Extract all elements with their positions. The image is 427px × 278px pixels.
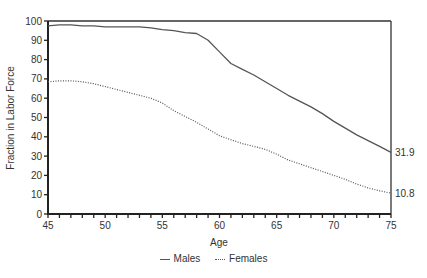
x-tick-label: 50 [100,220,112,231]
y-tick-label: 0 [36,209,42,220]
x-tick-label: 65 [271,220,283,231]
y-axis: 0102030405060708090100 [25,16,48,220]
x-tick-label: 70 [328,220,340,231]
x-axis-title: Age [210,237,228,248]
x-tick-label: 75 [385,220,397,231]
y-tick-label: 50 [31,112,43,123]
end-label-females: 10.8 [395,188,415,199]
legend-item-males: Males [160,253,201,264]
dotted-line-swatch-icon [215,259,225,260]
y-tick-label: 20 [31,170,43,181]
x-axis: 45505560657075 [42,214,397,231]
x-tick-label: 55 [157,220,169,231]
plot-frame [47,21,391,215]
y-tick-label: 90 [31,35,43,46]
y-tick-label: 100 [25,16,42,27]
legend-label-females: Females [229,253,267,264]
y-tick-label: 70 [31,73,43,84]
y-axis-title: Fraction in Labor Force [5,66,16,170]
y-tick-label: 40 [31,131,43,142]
series-layer [48,25,391,193]
x-tick-label: 45 [42,220,54,231]
y-tick-label: 10 [31,189,43,200]
legend-label-males: Males [174,253,201,264]
solid-line-swatch-icon [160,259,170,260]
end-labels: 31.910.8 [395,147,415,199]
y-tick-label: 80 [31,54,43,65]
legend: Males Females [0,253,427,264]
end-label-males: 31.9 [395,147,415,158]
y-tick-label: 60 [31,93,43,104]
series-females [48,81,391,193]
legend-item-females: Females [215,253,267,264]
y-tick-label: 30 [31,151,43,162]
x-tick-label: 60 [214,220,226,231]
labor-force-chart: 0102030405060708090100 45505560657075 31… [0,0,427,250]
series-males [48,25,391,152]
